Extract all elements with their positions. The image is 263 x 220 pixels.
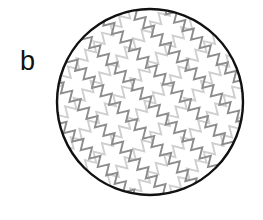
circle-zigzag-diagram xyxy=(0,0,263,220)
figure-panel: b xyxy=(0,0,263,220)
